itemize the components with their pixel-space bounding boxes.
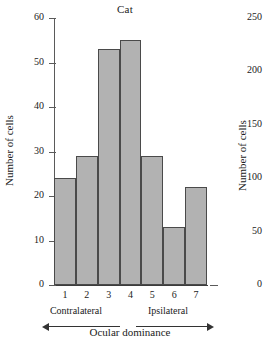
x-axis-label: Ocular dominance (40, 326, 220, 338)
histogram-bar (54, 178, 76, 285)
adjacent-y-axis-tick-label: 0 (236, 278, 262, 289)
histogram-bar (76, 156, 98, 285)
y-axis-tick-label: 20 (22, 189, 44, 200)
x-axis-tick-label: 1 (57, 289, 73, 300)
group-label-contralateral: Contralateral (28, 305, 124, 316)
y-axis-label: Number of cells (3, 116, 15, 186)
plot-area (54, 18, 207, 285)
histogram-bar (120, 40, 142, 285)
x-axis-tick-label: 4 (123, 289, 139, 300)
histogram-bar (141, 156, 163, 285)
y-axis-tick-label: 10 (22, 234, 44, 245)
x-axis-tick-label: 7 (188, 289, 204, 300)
histogram-bar (185, 187, 207, 285)
adjacent-chart-panel: Number of cells 050100150200250 (210, 0, 271, 335)
y-axis-tick-label: 40 (22, 100, 44, 111)
adjacent-y-axis-tick-label: 200 (236, 64, 262, 75)
main-chart-panel: Cat Number of cells 0102030405060 123456… (0, 0, 210, 335)
x-axis-tick-label: 3 (101, 289, 117, 300)
adjacent-axis-stub (210, 285, 218, 286)
adjacent-y-axis-tick-label: 100 (236, 171, 262, 182)
x-axis-line (54, 285, 208, 286)
x-axis-tick-label: 6 (166, 289, 182, 300)
y-axis-tick-label: 30 (22, 145, 44, 156)
histogram-bar (98, 49, 120, 285)
adjacent-y-axis-tick-label: 250 (236, 11, 262, 22)
chart-title: Cat (90, 3, 160, 15)
y-axis-tick-label: 60 (22, 11, 44, 22)
adjacent-y-axis-tick-label: 50 (236, 225, 262, 236)
x-axis-tick-label: 5 (144, 289, 160, 300)
x-axis-tick-label: 2 (79, 289, 95, 300)
group-label-ipsilateral: Ipsilateral (128, 305, 208, 316)
histogram-bar (163, 227, 185, 285)
y-axis-tick-label: 50 (22, 56, 44, 67)
adjacent-y-axis-tick-label: 150 (236, 118, 262, 129)
y-axis-tick (49, 285, 56, 286)
y-axis-tick-label: 0 (22, 278, 44, 289)
